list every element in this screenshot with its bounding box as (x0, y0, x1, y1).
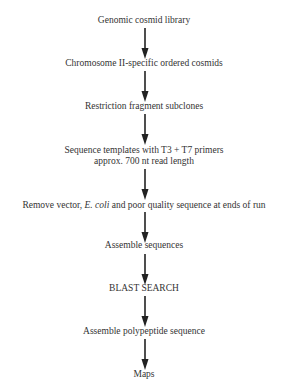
arrow-down-icon (141, 254, 149, 286)
node-chromosome-cosmids: Chromosome II-specific ordered cosmids (0, 58, 288, 69)
node-label: Maps (0, 369, 288, 380)
node-remove-vector: Remove vector, E. coli and poor quality … (0, 200, 288, 211)
arrow-down-icon (141, 169, 149, 201)
node-label: BLAST SEARCH (0, 283, 288, 294)
node-genomic-cosmid-library: Genomic cosmid library (0, 15, 288, 26)
node-restriction-subclones: Restriction fragment subclones (0, 101, 288, 112)
node-label-line-1: Sequence templates with T3 + T7 primers (0, 145, 288, 156)
node-label: Restriction fragment subclones (0, 101, 288, 112)
node-assemble-sequences: Assemble sequences (0, 240, 288, 251)
node-label: Chromosome II-specific ordered cosmids (0, 58, 288, 69)
node-label-ecoli: E. coli (85, 200, 110, 210)
arrow-down-icon (141, 296, 149, 328)
arrow-down-icon (141, 114, 149, 146)
node-label-part-3: and poor quality sequence at ends of run (109, 200, 265, 210)
node-label-line-2: approx. 700 nt read length (0, 156, 288, 167)
arrow-down-icon (141, 339, 149, 371)
arrow-down-icon (141, 71, 149, 103)
node-maps: Maps (0, 369, 288, 380)
node-blast-search: BLAST SEARCH (0, 283, 288, 294)
arrow-down-icon (141, 28, 149, 60)
node-label: Genomic cosmid library (0, 15, 288, 26)
node-label: Assemble polypeptide sequence (0, 326, 288, 337)
node-assemble-polypeptide: Assemble polypeptide sequence (0, 326, 288, 337)
node-label-part-1: Remove vector, (22, 200, 84, 210)
node-sequence-templates: Sequence templates with T3 + T7 primers … (0, 145, 288, 167)
node-label: Assemble sequences (0, 240, 288, 251)
